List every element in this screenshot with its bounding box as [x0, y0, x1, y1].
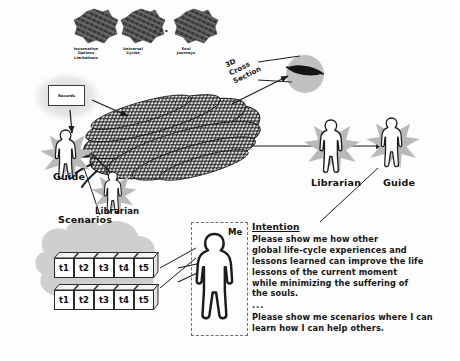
scenario-box[interactable]: t4: [114, 290, 134, 310]
caption-guide-left: Guide: [53, 172, 85, 183]
me-panel: [191, 222, 248, 336]
cluster-label-3: Soul Journeys: [161, 47, 211, 56]
intention-paragraph-2: Please show me scenarios where I can lea…: [252, 312, 456, 334]
scenario-box[interactable]: t1: [54, 258, 74, 278]
cross-section-disc: [286, 55, 324, 93]
caption-me: Me: [228, 228, 242, 238]
scenario-box[interactable]: t4: [114, 258, 134, 278]
caption-librarian-right: Librarian: [311, 178, 361, 189]
cluster-label-1: Incarnation Options Limitations: [61, 47, 111, 60]
intention-title: Intention: [252, 222, 456, 232]
scenario-box[interactable]: t2: [74, 258, 94, 278]
scenario-box[interactable]: t1: [54, 290, 74, 310]
records-label: Records: [58, 93, 75, 98]
diagram-canvas: Records Incarnation Options Limitations …: [0, 0, 460, 361]
records-box: Records: [48, 85, 85, 106]
scenario-box[interactable]: t2: [74, 290, 94, 310]
scenario-box-side: [153, 252, 160, 279]
cluster-ellipsis: ...: [153, 22, 170, 35]
intention-panel: Intention Please show me how other globa…: [252, 222, 456, 334]
caption-guide-right: Guide: [383, 178, 415, 189]
scenario-box[interactable]: t3: [94, 290, 114, 310]
intention-ellipsis: ...: [252, 300, 456, 311]
scenario-box-side: [153, 284, 160, 311]
scenario-box[interactable]: t5: [134, 258, 154, 278]
scenarios-label: Scenarios: [58, 215, 112, 226]
cluster-label-2: Universal Cycles: [108, 47, 158, 56]
intention-paragraph-1: Please show me how other global life-cyc…: [252, 234, 456, 299]
scenario-box[interactable]: t5: [134, 290, 154, 310]
scenario-box[interactable]: t3: [94, 258, 114, 278]
cluster-blob-3: [174, 9, 218, 43]
cluster-blob-1: [74, 9, 118, 43]
